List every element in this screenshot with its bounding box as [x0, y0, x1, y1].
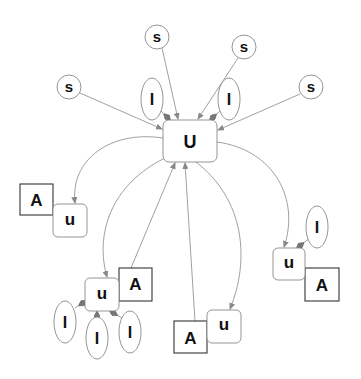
edge-U-u2 — [103, 158, 165, 277]
i-node-4[interactable]: I — [86, 317, 108, 359]
central-U-label: U — [184, 132, 197, 152]
edge-i5-u2 — [110, 311, 122, 318]
s-node-1-label: s — [153, 28, 161, 45]
i-node-1-label: I — [150, 91, 154, 108]
i-node-5[interactable]: I — [119, 311, 141, 353]
a-node-4[interactable]: A — [305, 268, 339, 301]
i-node-2[interactable]: I — [218, 78, 240, 120]
diagram-canvas: s s s s I I I I I I U A — [0, 0, 361, 379]
edge-U-u3 — [196, 162, 241, 309]
i-node-6[interactable]: I — [306, 206, 328, 248]
central-U-node[interactable]: U — [163, 120, 217, 162]
u-node-2-label: u — [97, 284, 107, 303]
u-node-3[interactable]: u — [207, 310, 241, 343]
u-node-1-label: u — [65, 210, 75, 229]
a-node-2-label: A — [129, 275, 141, 294]
i-node-3-label: I — [63, 314, 67, 331]
i-node-5-label: I — [128, 324, 132, 341]
u-node-4-label: u — [284, 253, 294, 272]
u-node-2[interactable]: u — [85, 278, 119, 311]
s-node-4-label: s — [307, 78, 315, 95]
u-node-3-label: u — [219, 315, 229, 334]
a-node-4-label: A — [316, 276, 328, 295]
s-node-4[interactable]: s — [299, 75, 323, 99]
s-node-1[interactable]: s — [145, 25, 169, 49]
a-node-1[interactable]: A — [20, 184, 53, 215]
a-node-3-label: A — [184, 329, 196, 348]
edge-s1-U — [162, 48, 178, 119]
i-node-6-label: I — [315, 219, 319, 236]
s-node-3-label: s — [65, 78, 73, 95]
edges-s-to-U — [80, 48, 300, 130]
a-node-2[interactable]: A — [119, 268, 152, 301]
a-node-1-label: A — [30, 191, 42, 210]
i-node-4-label: I — [95, 330, 99, 347]
edge-U-u1 — [75, 137, 163, 203]
edge-a2-U — [131, 163, 175, 268]
edge-U-u4 — [217, 142, 289, 247]
edge-a3-U — [185, 163, 195, 321]
edge-i3-u2 — [75, 301, 86, 308]
i-node-2-label: I — [227, 91, 231, 108]
u-node-4[interactable]: u — [273, 248, 305, 280]
edge-i1-U — [160, 110, 170, 120]
i-node-3[interactable]: I — [54, 301, 76, 343]
i-node-1[interactable]: I — [141, 78, 163, 120]
edge-i2-U — [210, 110, 221, 120]
s-node-3[interactable]: s — [57, 75, 81, 99]
s-node-2[interactable]: s — [232, 35, 256, 59]
u-node-1[interactable]: u — [53, 204, 87, 237]
a-node-3[interactable]: A — [174, 321, 207, 353]
s-node-2-label: s — [240, 38, 248, 55]
